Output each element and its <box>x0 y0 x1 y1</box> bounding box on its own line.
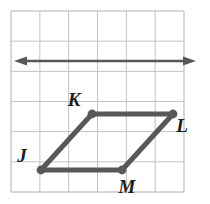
arrow-head-left-icon <box>14 56 27 65</box>
vertex-label-j: J <box>16 145 27 166</box>
vertex-label-k: K <box>67 89 82 110</box>
vertex-dot-j <box>37 166 46 175</box>
vertex-label-m: M <box>118 176 137 197</box>
vertex-dot-m <box>118 166 127 175</box>
arrow-head-right-icon <box>183 56 196 65</box>
geometry-figure-screenshot: JKLM <box>0 0 210 204</box>
figure-canvas: JKLM <box>0 0 210 204</box>
vertex-label-l: L <box>175 115 188 136</box>
parallelogram-vertex-dots <box>37 110 178 175</box>
horizontal-double-arrow <box>14 56 196 65</box>
vertex-dot-k <box>88 110 97 119</box>
grid-lines <box>11 11 184 192</box>
vertex-labels: JKLM <box>16 89 188 197</box>
